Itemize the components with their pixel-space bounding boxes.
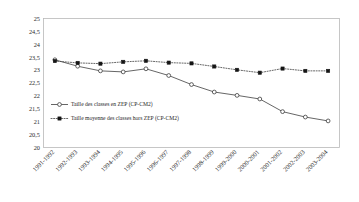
data-point-marker: [281, 67, 284, 70]
data-point-marker: [326, 119, 330, 123]
data-point-marker: [99, 62, 102, 65]
line-chart: 2020,52121,52222,52323,52424,525 1991-19…: [0, 0, 359, 202]
y-tick-label: 25: [34, 15, 40, 22]
y-tick-label: 23: [34, 66, 40, 73]
data-point-marker: [167, 74, 171, 78]
data-point-marker: [53, 59, 56, 62]
legend-marker: [58, 117, 61, 120]
data-point-marker: [258, 97, 262, 101]
y-tick-label: 23,5: [29, 54, 40, 61]
y-tick-label: 24: [34, 41, 41, 48]
data-point-marker: [144, 67, 148, 71]
y-tick-label: 20: [34, 144, 40, 151]
legend-label: Taille des classes en ZEP (CP-CM2): [71, 101, 153, 108]
y-tick-label: 22,5: [29, 79, 40, 86]
data-point-marker: [235, 68, 238, 71]
y-tick-label: 21,5: [29, 105, 40, 112]
data-point-marker: [190, 83, 194, 87]
data-point-marker: [144, 59, 147, 62]
legend-label: Taille moyenne des classes hors ZEP (CP-…: [71, 115, 179, 122]
data-point-marker: [167, 61, 170, 64]
data-point-marker: [235, 93, 239, 97]
y-tick-label: 20,5: [29, 131, 40, 138]
data-point-marker: [327, 69, 330, 72]
data-point-marker: [281, 110, 285, 114]
data-point-marker: [99, 69, 103, 73]
data-point-marker: [76, 64, 80, 68]
y-tick-label: 22: [34, 92, 40, 99]
data-point-marker: [212, 90, 216, 94]
data-point-marker: [122, 60, 125, 63]
data-point-marker: [213, 65, 216, 68]
chart-container: 2020,52121,52222,52323,52424,525 1991-19…: [0, 0, 359, 202]
data-point-marker: [76, 61, 79, 64]
data-point-marker: [190, 62, 193, 65]
legend-marker: [58, 103, 62, 107]
data-point-marker: [304, 69, 307, 72]
data-point-marker: [121, 70, 125, 74]
data-point-marker: [258, 71, 261, 74]
chart-background: [0, 0, 359, 202]
y-tick-label: 21: [34, 118, 40, 125]
y-tick-label: 24,5: [29, 28, 40, 35]
legend-item-1: Taille moyenne des classes hors ZEP (CP-…: [51, 115, 179, 122]
data-point-marker: [303, 115, 307, 119]
